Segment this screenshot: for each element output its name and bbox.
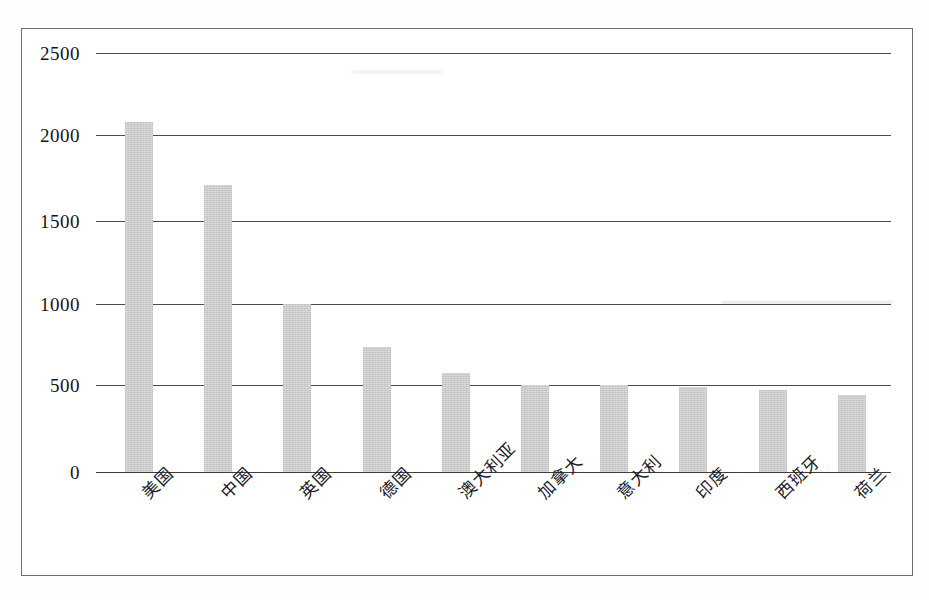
bar-8 [679, 387, 707, 472]
gridline-2500 [96, 53, 891, 54]
bar-2 [204, 185, 232, 472]
bar-9 [759, 390, 787, 472]
ytick-label-2500: 2500 [0, 44, 80, 63]
ytick-label-0: 0 [0, 463, 80, 482]
bar-5 [442, 373, 470, 472]
bar-4 [363, 347, 391, 472]
ytick-label-500: 500 [0, 376, 80, 395]
ytick-label-1500: 1500 [0, 212, 80, 231]
bar-7 [600, 385, 628, 472]
bar-10 [838, 395, 866, 472]
ytick-label-2000: 2000 [0, 126, 80, 145]
bar-1 [125, 122, 153, 472]
gridline-2000 [96, 135, 891, 136]
bar-6 [521, 385, 549, 472]
plot-area: 2500 2000 1500 1000 500 0 美国中国英国德国澳大利亚加拿… [22, 29, 914, 577]
ytick-label-1000: 1000 [0, 295, 80, 314]
bar-3 [283, 304, 311, 472]
chart-frame: 2500 2000 1500 1000 500 0 美国中国英国德国澳大利亚加拿… [21, 28, 913, 576]
scan-smudge [352, 71, 442, 73]
scanned-page: 2500 2000 1500 1000 500 0 美国中国英国德国澳大利亚加拿… [0, 0, 929, 600]
